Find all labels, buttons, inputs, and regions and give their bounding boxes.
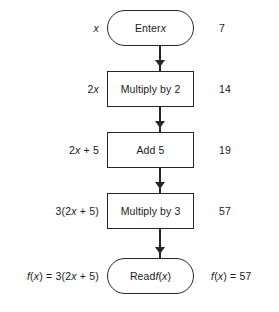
shape-cell-add-5: Add 5 [106, 132, 195, 168]
value-label-enter: 7 [195, 22, 279, 34]
expression-label-read: f(x) = 3(2x + 5) [0, 270, 106, 282]
arrow-head-icon [155, 247, 165, 254]
terminal-shape-enter: Enter x [107, 10, 194, 46]
value-label-read: f(x) = 57 [195, 270, 279, 282]
shape-cell-multiply-by-3: Multiply by 3 [106, 193, 195, 229]
expression-label-multiply-by-2: 2x [0, 83, 106, 95]
flowchart-row-add-5: 2x + 5 Add 5 19 [0, 132, 279, 168]
process-shape-multiply-by-2: Multiply by 2 [107, 71, 194, 107]
flowchart-row-read: f(x) = 3(2x + 5) Read f(x) f(x) = 57 [0, 258, 279, 294]
connector-arrow-enter-to-multiply2 [155, 46, 166, 71]
value-label-multiply-by-3: 57 [195, 205, 279, 217]
arrow-head-icon [155, 60, 165, 67]
value-label-add-5: 19 [195, 144, 279, 156]
shape-cell-multiply-by-2: Multiply by 2 [106, 71, 195, 107]
connector-arrow-multiply2-to-add5 [155, 107, 166, 132]
shape-cell-enter: Enter x [106, 10, 195, 46]
value-label-multiply-by-2: 14 [195, 83, 279, 95]
shape-cell-read: Read f(x) [106, 258, 195, 294]
arrow-line [159, 168, 161, 193]
process-shape-multiply-by-3: Multiply by 3 [107, 193, 194, 229]
expression-label-add-5: 2x + 5 [0, 144, 106, 156]
expression-label-multiply-by-3: 3(2x + 5) [0, 205, 106, 217]
arrow-line [159, 46, 161, 71]
connector-arrow-multiply3-to-read [155, 229, 166, 258]
arrow-line [159, 107, 161, 132]
expression-label-enter: x [0, 22, 106, 34]
terminal-shape-read: Read f(x) [107, 258, 194, 294]
flowchart-row-enter: x Enter x 7 [0, 10, 279, 46]
flowchart-diagram: x Enter x 7 2x Multiply by 2 14 2x + 5 A… [0, 0, 279, 312]
flowchart-row-multiply-by-2: 2x Multiply by 2 14 [0, 71, 279, 107]
flowchart-row-multiply-by-3: 3(2x + 5) Multiply by 3 57 [0, 193, 279, 229]
arrow-head-icon [155, 121, 165, 128]
arrow-head-icon [155, 182, 165, 189]
process-shape-add-5: Add 5 [107, 132, 194, 168]
connector-arrow-add5-to-multiply3 [155, 168, 166, 193]
